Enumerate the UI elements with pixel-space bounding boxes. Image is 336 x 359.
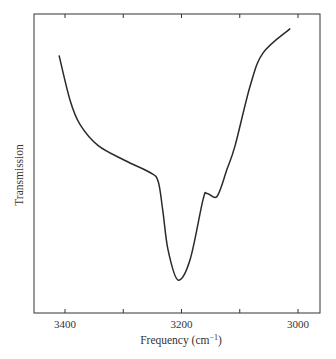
- x-tick-label: 3000: [287, 318, 310, 330]
- spectrum-line: [59, 29, 290, 280]
- x-tick-labels: 340032003000: [54, 318, 310, 330]
- x-ticks: [65, 14, 298, 313]
- x-tick-label: 3400: [54, 318, 77, 330]
- ir-spectrum-chart: 340032003000 Frequency (cm−1) Transmissi…: [0, 0, 336, 359]
- x-axis-label: Frequency (cm−1): [140, 333, 222, 347]
- plot-frame: [34, 14, 320, 313]
- x-tick-label: 3200: [171, 318, 194, 330]
- y-axis-label: Transmission: [13, 144, 25, 206]
